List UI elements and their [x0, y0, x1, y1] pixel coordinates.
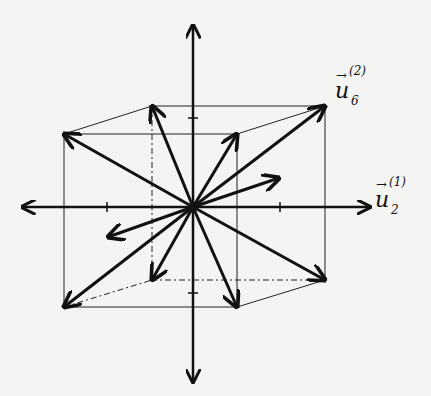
cube-vector-diagram: → u (2) 6 → u (1) 2: [0, 0, 431, 396]
label-u2: → u (1) 2: [375, 183, 425, 223]
label-u6: → u (2) 6: [335, 72, 385, 112]
diagram-canvas: [0, 0, 431, 396]
